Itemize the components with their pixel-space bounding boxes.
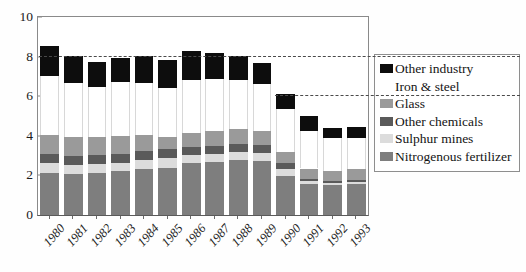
x-axis-tick-label-1987: 1987 <box>206 222 232 249</box>
legend-item-glass[interactable]: Glass <box>380 95 514 113</box>
bar-segment-other-chemicals <box>88 155 107 164</box>
bar-segment-iron-steel <box>64 83 83 136</box>
x-axis-tick-mark <box>355 216 356 219</box>
bar-1980[interactable] <box>40 46 59 215</box>
bar-segment-glass <box>253 131 272 145</box>
x-axis-tick-mark <box>190 216 191 219</box>
bar-segment-sulphur-mines <box>229 152 248 160</box>
x-axis-tick-mark <box>143 216 144 219</box>
legend-item-other-chemicals[interactable]: Other chemicals <box>380 113 514 131</box>
y-axis-tick-label: 0 <box>26 208 33 222</box>
bar-segment-iron-steel <box>135 83 154 134</box>
legend-swatch-other-industry <box>380 64 393 73</box>
bar-1983[interactable] <box>111 58 130 215</box>
bar-segment-other-chemicals <box>205 146 224 154</box>
bar-segment-nitrogenous-fertilizer <box>229 160 248 215</box>
bar-segment-glass <box>111 136 130 154</box>
bar-segment-other-chemicals <box>40 154 59 163</box>
legend-label: Glass <box>395 97 425 111</box>
bar-1987[interactable] <box>205 53 224 215</box>
bar-segment-iron-steel <box>182 80 201 132</box>
legend-label: Sulphur mines <box>395 132 473 146</box>
bar-segment-sulphur-mines <box>253 153 272 161</box>
bar-segment-other-chemicals <box>253 145 272 153</box>
bar-segment-other-industry <box>88 62 107 88</box>
bar-segment-glass <box>347 169 366 180</box>
bar-segment-nitrogenous-fertilizer <box>158 168 177 215</box>
bar-segment-other-industry <box>347 127 366 138</box>
bar-segment-other-chemicals <box>300 179 319 181</box>
bar-segment-iron-steel <box>111 82 130 135</box>
bar-segment-other-chemicals <box>158 149 177 158</box>
legend-swatch-other-chemicals <box>380 117 393 126</box>
bar-segment-other-industry <box>300 116 319 131</box>
bar-1988[interactable] <box>229 56 248 215</box>
legend-item-sulphur-mines[interactable]: Sulphur mines <box>380 130 514 148</box>
bar-1991[interactable] <box>300 116 319 215</box>
bar-segment-iron-steel <box>88 87 107 137</box>
bar-segment-glass <box>182 133 201 147</box>
bar-segment-sulphur-mines <box>158 158 177 169</box>
bar-segment-other-chemicals <box>229 144 248 152</box>
x-axis-tick-label-1991: 1991 <box>300 222 326 249</box>
y-axis-tick-label: 2 <box>26 169 33 183</box>
bar-segment-other-chemicals <box>111 154 130 163</box>
bar-segment-nitrogenous-fertilizer <box>205 162 224 215</box>
x-axis-tick-label-1984: 1984 <box>135 222 161 249</box>
legend-swatch-glass <box>380 99 393 108</box>
legend-item-other-industry[interactable]: Other industry <box>380 60 514 78</box>
bar-segment-glass <box>229 129 248 144</box>
bar-segment-other-industry <box>205 53 224 80</box>
bar-segment-other-chemicals <box>323 181 342 183</box>
bar-1993[interactable] <box>347 127 366 215</box>
y-axis-tick-label: 6 <box>26 89 33 103</box>
bar-1986[interactable] <box>182 51 201 215</box>
legend-label: Iron & steel <box>395 80 459 94</box>
legend-item-nitrogenous-fertilizer[interactable]: Nitrogenous fertilizer <box>380 148 514 166</box>
bar-1990[interactable] <box>276 94 295 215</box>
x-axis-tick-mark <box>214 216 215 219</box>
bar-segment-nitrogenous-fertilizer <box>40 173 59 215</box>
x-axis-tick-label-1980: 1980 <box>41 222 67 249</box>
bar-1992[interactable] <box>323 127 342 215</box>
x-axis-tick-label-1989: 1989 <box>253 222 279 249</box>
legend-label: Other industry <box>395 62 473 76</box>
reference-line-8 <box>39 56 520 57</box>
bar-1985[interactable] <box>158 60 177 215</box>
bar-segment-nitrogenous-fertilizer <box>300 184 319 215</box>
bar-segment-nitrogenous-fertilizer <box>323 185 342 215</box>
x-axis-tick-label-1985: 1985 <box>159 222 185 249</box>
legend-swatch-nitrogenous-fertilizer <box>380 152 393 161</box>
bar-segment-other-chemicals <box>347 180 366 182</box>
bar-segment-sulphur-mines <box>205 154 224 162</box>
x-axis-tick-mark <box>237 216 238 219</box>
x-axis-tick-mark <box>261 216 262 219</box>
x-axis-tick-mark <box>285 216 286 219</box>
bar-1989[interactable] <box>253 63 272 215</box>
bar-segment-glass <box>323 171 342 181</box>
bar-segment-iron-steel <box>323 138 342 171</box>
x-axis-tick-mark <box>332 216 333 219</box>
plot-area: 0246810 <box>37 16 369 216</box>
bar-segment-glass <box>158 137 177 149</box>
bar-segment-sulphur-mines <box>300 181 319 184</box>
bar-segment-glass <box>205 131 224 146</box>
bar-segment-glass <box>300 169 319 180</box>
bar-segment-other-chemicals <box>182 147 201 155</box>
bar-1982[interactable] <box>88 62 107 215</box>
x-axis-tick-mark <box>72 216 73 219</box>
bar-segment-nitrogenous-fertilizer <box>276 176 295 215</box>
bar-segment-other-chemicals <box>64 156 83 165</box>
bar-segment-nitrogenous-fertilizer <box>88 173 107 215</box>
bar-segment-sulphur-mines <box>135 160 154 170</box>
x-axis-tick-label-1986: 1986 <box>182 222 208 249</box>
bar-1981[interactable] <box>64 56 83 215</box>
x-axis-tick-label-1983: 1983 <box>112 222 138 249</box>
legend-item-iron-steel[interactable]: Iron & steel <box>380 78 514 96</box>
x-axis-tick-mark <box>167 216 168 219</box>
chart-canvas: 0246810 Other industryIron & steelGlassO… <box>0 0 526 272</box>
y-axis-tick-label: 8 <box>26 50 33 64</box>
bar-segment-other-industry <box>135 56 154 84</box>
y-axis-tick-label: 10 <box>20 10 34 24</box>
bar-1984[interactable] <box>135 56 154 215</box>
